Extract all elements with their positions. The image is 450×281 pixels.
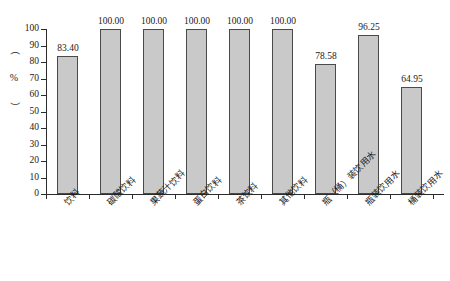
x-tick-5 [304,195,305,199]
y-axis-line [46,29,47,195]
bar-value-label-8: 64.95 [390,74,434,84]
y-tick-label-0: 0 [13,189,39,199]
y-tick-70 [41,79,46,80]
y-tick-label-100: 100 [13,24,39,34]
bar-value-label-5: 100.00 [261,16,305,26]
y-tick-40 [41,128,46,129]
x-tick-3 [218,195,219,199]
y-tick-20 [41,161,46,162]
x-tick-0 [89,195,90,199]
bar-4 [229,29,250,194]
x-tick-1 [132,195,133,199]
y-tick-label-80: 80 [13,57,39,67]
y-tick-100 [41,29,46,30]
y-tick-label-40: 40 [13,123,39,133]
bar-3 [186,29,207,194]
y-tick-label-30: 30 [13,140,39,150]
x-tick-6 [347,195,348,199]
x-tick-origin [46,195,47,199]
bar-value-label-1: 100.00 [89,16,133,26]
y-tick-label-90: 90 [13,41,39,51]
bar-value-label-0: 83.40 [46,43,90,53]
y-tick-label-10: 10 [13,173,39,183]
bar-8 [401,87,422,194]
bar-value-label-2: 100.00 [132,16,176,26]
bar-value-label-4: 100.00 [218,16,262,26]
y-tick-label-20: 20 [13,156,39,166]
y-tick-label-60: 60 [13,90,39,100]
bar-value-label-3: 100.00 [175,16,219,26]
y-tick-60 [41,95,46,96]
x-tick-4 [261,195,262,199]
y-tick-30 [41,145,46,146]
bar-value-label-7: 96.25 [347,22,391,32]
y-tick-10 [41,178,46,179]
bar-2 [143,29,164,194]
bar-0 [57,56,78,194]
bar-chart: （ % ） 0102030405060708090100 83.40100.00… [0,0,450,281]
bar-6 [315,64,336,194]
y-tick-label-50: 50 [13,107,39,117]
x-tick-2 [175,195,176,199]
x-tick-7 [390,195,391,199]
y-tick-50 [41,112,46,113]
bar-5 [272,29,293,194]
x-tick-8 [433,195,434,199]
y-tick-label-70: 70 [13,74,39,84]
bar-value-label-6: 78.58 [304,51,348,61]
bar-1 [100,29,121,194]
y-tick-80 [41,62,46,63]
